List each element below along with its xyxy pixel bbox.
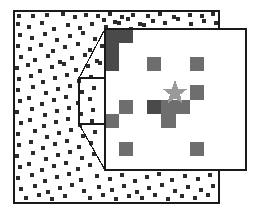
lattice-point xyxy=(183,174,187,178)
lattice-point xyxy=(17,14,21,18)
lattice-point xyxy=(133,179,137,183)
lattice-point xyxy=(40,168,44,172)
lattice-point xyxy=(208,173,212,177)
lattice-point xyxy=(157,172,161,176)
lattice-point xyxy=(16,132,20,136)
lattice-point xyxy=(90,119,94,123)
lattice-point xyxy=(211,12,215,16)
lattice-point xyxy=(74,68,78,72)
lattice-point xyxy=(19,187,23,191)
lattice-point xyxy=(67,172,71,176)
inset-cell xyxy=(105,29,119,43)
lattice-point xyxy=(19,55,23,59)
lattice-point xyxy=(55,109,59,113)
lattice-point xyxy=(189,22,193,26)
lattice-point xyxy=(158,12,162,16)
lattice-point xyxy=(41,146,45,150)
lattice-point xyxy=(147,186,151,190)
lattice-point xyxy=(140,196,144,200)
lattice-point xyxy=(56,153,60,157)
figure-root xyxy=(0,0,257,215)
lattice-point xyxy=(68,150,72,154)
lattice-point xyxy=(17,143,21,147)
lattice-point xyxy=(160,183,164,187)
lattice-point xyxy=(18,33,22,37)
lattice-point xyxy=(108,177,112,181)
lattice-point xyxy=(38,69,42,73)
lattice-point xyxy=(92,86,96,90)
figure-canvas xyxy=(0,0,257,215)
lattice-point xyxy=(37,193,41,197)
lattice-point xyxy=(113,20,117,24)
lattice-point xyxy=(80,90,84,94)
lattice-point xyxy=(53,76,57,80)
lattice-point xyxy=(79,178,83,182)
lattice-point xyxy=(39,43,43,47)
lattice-point xyxy=(55,38,59,42)
lattice-point xyxy=(199,188,203,192)
lattice-point xyxy=(88,97,92,101)
lattice-point xyxy=(98,61,102,65)
inset-cell xyxy=(119,142,133,156)
lattice-point xyxy=(31,14,35,18)
lattice-point xyxy=(66,117,70,121)
lattice-point xyxy=(33,129,37,133)
lattice-point xyxy=(41,80,45,84)
lattice-point xyxy=(43,32,47,36)
lattice-point xyxy=(51,49,55,53)
lattice-point xyxy=(62,62,66,66)
lattice-point xyxy=(46,54,50,58)
lattice-point xyxy=(44,91,48,95)
lattice-point xyxy=(176,17,180,21)
lattice-point xyxy=(27,162,31,166)
inset-cell xyxy=(105,57,119,71)
lattice-point xyxy=(40,21,44,25)
lattice-point xyxy=(16,176,20,180)
lattice-point xyxy=(211,184,215,188)
lattice-point xyxy=(29,140,33,144)
lattice-point xyxy=(15,66,19,70)
lattice-point xyxy=(28,118,32,122)
lattice-point xyxy=(30,173,34,177)
lattice-point xyxy=(52,164,56,168)
lattice-point xyxy=(120,15,124,19)
lattice-point xyxy=(63,45,67,49)
lattice-point xyxy=(58,60,62,64)
lattice-point xyxy=(16,88,20,92)
lattice-point xyxy=(96,14,100,18)
lattice-point xyxy=(110,188,114,192)
lattice-point xyxy=(58,186,62,190)
lattice-point xyxy=(50,197,54,201)
lattice-point xyxy=(84,13,88,17)
lattice-point xyxy=(33,184,37,188)
lattice-point xyxy=(93,37,97,41)
lattice-point xyxy=(31,151,35,155)
lattice-point xyxy=(56,87,60,91)
lattice-point xyxy=(43,113,47,117)
lattice-point xyxy=(24,196,28,200)
inset-cell xyxy=(105,43,119,57)
lattice-point xyxy=(214,21,218,25)
lattice-point xyxy=(170,178,174,182)
lattice-point xyxy=(146,14,150,18)
lattice-point xyxy=(19,121,23,125)
lattice-point xyxy=(131,13,135,17)
inset-cell xyxy=(190,142,204,156)
lattice-point xyxy=(45,13,49,17)
lattice-point xyxy=(80,156,84,160)
lattice-point xyxy=(45,135,49,139)
lattice-point xyxy=(64,95,68,99)
lattice-point xyxy=(70,183,74,187)
lattice-point xyxy=(44,157,48,161)
lattice-point xyxy=(93,130,97,134)
lattice-point xyxy=(70,56,74,60)
lattice-point xyxy=(30,107,34,111)
lattice-point xyxy=(202,19,206,23)
lattice-point xyxy=(28,47,32,51)
lattice-point xyxy=(55,175,59,179)
lattice-point xyxy=(97,185,101,189)
lattice-point xyxy=(166,197,170,201)
lattice-point xyxy=(18,99,22,103)
lattice-point xyxy=(172,15,176,19)
lattice-point xyxy=(76,42,80,46)
